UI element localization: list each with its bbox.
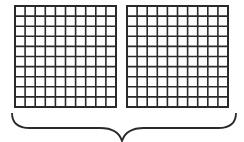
curly-brace bbox=[0, 0, 244, 142]
